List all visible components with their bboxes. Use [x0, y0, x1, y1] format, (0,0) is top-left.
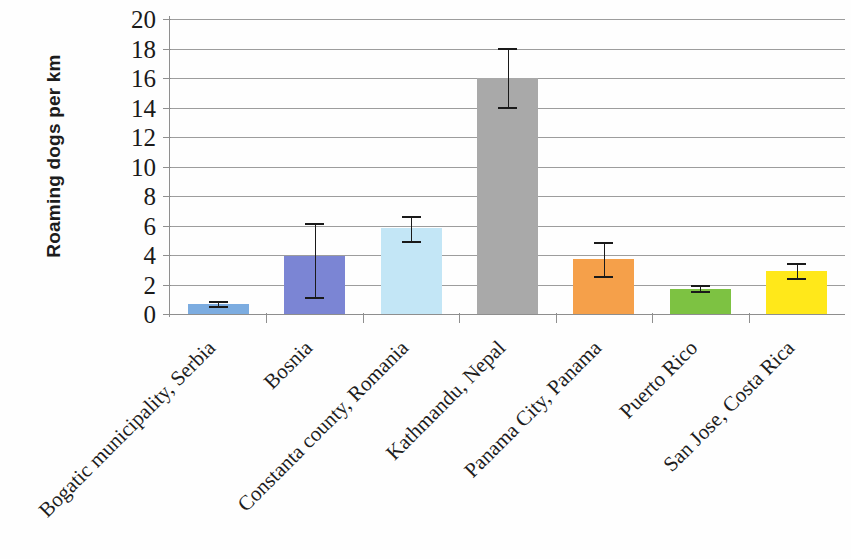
error-bar-cap-lower — [402, 241, 421, 243]
x-tick-label: Constanta county, Romania — [233, 336, 414, 517]
error-bar-cap-upper — [787, 263, 806, 265]
y-tick-mark — [163, 226, 171, 227]
error-bar-cap-upper — [305, 223, 324, 225]
y-tick-mark — [163, 196, 171, 197]
gridline — [170, 19, 845, 20]
bar-chart-figure: Roaming dogs per km 02468101214161820 Bo… — [0, 0, 851, 559]
x-tick-mark — [266, 313, 267, 323]
y-tick-mark — [163, 78, 171, 79]
y-tick-label: 4 — [144, 243, 157, 268]
error-bar-cap-lower — [305, 297, 324, 299]
x-tick-label: Kathmandu, Nepal — [380, 336, 510, 466]
y-tick-mark — [163, 137, 171, 138]
bar[interactable] — [477, 78, 538, 314]
y-tick-label: 18 — [131, 36, 156, 61]
y-tick-label: 14 — [131, 95, 156, 120]
y-tick-label: 2 — [144, 272, 157, 297]
y-tick-mark — [163, 255, 171, 256]
x-tick-label: San Jose, Costa Rica — [658, 336, 799, 477]
y-tick-label: 0 — [144, 302, 157, 327]
x-tick-mark — [363, 313, 364, 323]
error-bar-cap-upper — [498, 48, 517, 50]
y-tick-label: 20 — [131, 7, 156, 32]
error-bar-line — [411, 217, 412, 242]
y-axis-tick-labels: 02468101214161820 — [96, 0, 162, 330]
error-bar-cap-upper — [402, 216, 421, 218]
x-tick-label: Bosnia — [259, 336, 318, 395]
error-bar-cap-upper — [691, 285, 710, 287]
x-tick-label: Bogatic municipality, Serbia — [34, 336, 221, 523]
y-tick-mark — [163, 314, 171, 315]
error-bar-line — [604, 243, 605, 277]
error-bar-cap-lower — [209, 306, 228, 308]
y-tick-label: 12 — [131, 125, 156, 150]
y-tick-mark — [163, 49, 171, 50]
y-tick-mark — [163, 285, 171, 286]
error-bar-cap-upper — [594, 242, 613, 244]
error-bar-line — [797, 264, 798, 279]
error-bar-line — [315, 224, 316, 298]
y-tick-mark — [163, 108, 171, 109]
y-tick-label: 6 — [144, 213, 157, 238]
error-bar-cap-lower — [691, 291, 710, 293]
x-tick-label: Puerto Rico — [615, 336, 703, 424]
y-tick-mark — [163, 167, 171, 168]
x-tick-label: Panama City, Panama — [459, 336, 606, 483]
error-bar-cap-lower — [787, 278, 806, 280]
y-tick-mark — [163, 19, 171, 20]
gridline — [170, 314, 845, 315]
y-axis-title: Roaming dogs per km — [43, 6, 65, 306]
x-tick-mark — [652, 313, 653, 323]
x-tick-mark — [459, 313, 460, 323]
y-tick-label: 16 — [131, 66, 156, 91]
x-tick-mark — [749, 313, 750, 323]
y-tick-label: 10 — [131, 154, 156, 179]
error-bar-cap-upper — [209, 301, 228, 303]
error-bar-line — [508, 49, 509, 108]
error-bar-cap-lower — [498, 107, 517, 109]
plot-area — [170, 19, 845, 314]
y-tick-label: 8 — [144, 184, 157, 209]
error-bar-cap-lower — [594, 276, 613, 278]
x-tick-mark — [556, 313, 557, 323]
